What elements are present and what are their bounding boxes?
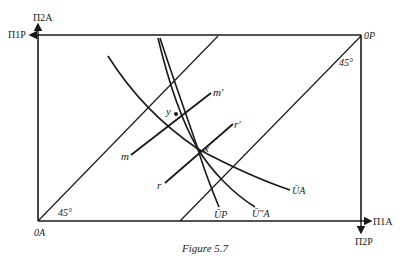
label-r-prime: r' <box>234 118 241 130</box>
label-pi1p: Π1P <box>8 29 26 40</box>
label-origin-p: 0P <box>364 30 375 41</box>
label-curve-ua: ŪA <box>292 185 306 196</box>
label-angle-bottom-left: 45° <box>58 207 72 218</box>
label-pi1a: Π1A <box>373 216 393 227</box>
point-y <box>174 112 178 116</box>
curve-up <box>160 38 219 207</box>
curve-ua <box>108 56 290 190</box>
label-r: r <box>157 179 162 191</box>
label-pi2a: Π2A <box>33 12 53 23</box>
label-pi2p: Π2P <box>355 236 373 247</box>
box-frame <box>38 35 361 221</box>
label-point-y: y <box>165 105 171 117</box>
label-curve-ua-double-prime: Ū″A <box>252 208 270 219</box>
label-curve-up: ŪP <box>214 209 227 220</box>
label-origin-a: 0A <box>34 227 46 238</box>
edgeworth-box-diagram: Π2A Π1P Π1A Π2P 0A 0P 45° 45° y x m m' r… <box>0 0 408 258</box>
label-point-x: x <box>203 142 209 154</box>
label-m-prime: m' <box>213 86 224 98</box>
label-angle-top-right: 45° <box>339 57 353 68</box>
figure-caption: Figure 5.7 <box>181 242 229 254</box>
label-m: m <box>121 150 129 162</box>
diagonal-from-origin-p <box>180 36 361 221</box>
point-x <box>197 148 200 151</box>
